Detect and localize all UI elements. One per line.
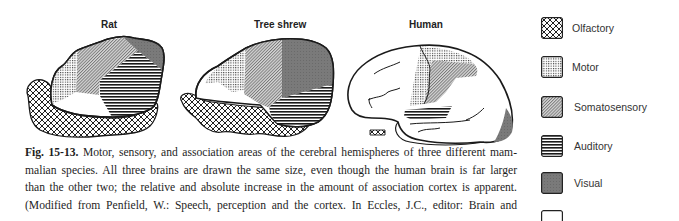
- blank-swatch-icon: [541, 210, 563, 221]
- dots-swatch-icon: [541, 56, 563, 78]
- diagonal-swatch-icon: [541, 96, 563, 118]
- legend-label: Auditory: [574, 140, 613, 152]
- legend: Olfactory Motor Somatosensory Auditory V…: [541, 0, 679, 221]
- legend-item-olfactory: Olfactory: [541, 17, 679, 41]
- figure-caption: Fig. 15-13. Motor, sensory, and associat…: [25, 144, 517, 214]
- caption-line-4: (Modified from Penfield, W.: Speech, per…: [25, 197, 517, 215]
- legend-label: Somatosensory: [574, 101, 647, 113]
- legend-item-somatosensory: Somatosensory: [541, 96, 679, 120]
- caption-line-2: malian species. All three brains are dra…: [25, 162, 517, 180]
- human-olfactory-bulb: [370, 130, 385, 135]
- caption-line-3: than the other two; the relative and abs…: [25, 179, 517, 197]
- legend-label: Motor: [572, 61, 599, 73]
- human-title: Human: [409, 19, 443, 30]
- tree-shrew-brain: [181, 39, 334, 137]
- figure-number: Fig. 15-13.: [25, 146, 78, 159]
- legend-item-motor: Motor: [541, 56, 679, 80]
- tree-shrew-title: Tree shrew: [254, 19, 306, 30]
- legend-item-visual: Visual: [541, 172, 679, 196]
- legend-label: Visual: [574, 177, 602, 189]
- rat-brain: [27, 37, 164, 138]
- crosshatch-swatch-icon: [541, 17, 563, 39]
- legend-label: Olfactory: [572, 22, 614, 34]
- caption-line-1: Fig. 15-13. Motor, sensory, and associat…: [25, 144, 517, 162]
- dark-gray-swatch-icon: [541, 172, 563, 194]
- rat-title: Rat: [101, 19, 117, 30]
- legend-item-association: [541, 210, 679, 221]
- horizontal-lines-swatch-icon: [541, 135, 563, 157]
- human-brain: [348, 45, 513, 145]
- legend-item-auditory: Auditory: [541, 135, 679, 159]
